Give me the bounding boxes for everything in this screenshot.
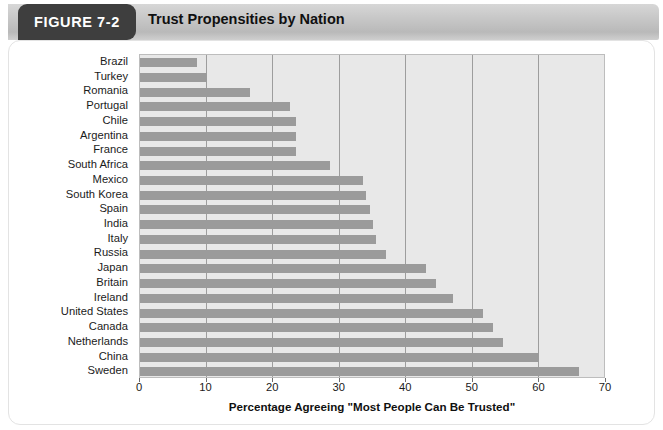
bar-row	[140, 70, 605, 85]
figure-root: FIGURE 7-2 Trust Propensities by Nation …	[0, 0, 663, 430]
bar-portugal	[140, 102, 290, 111]
bar-south-korea	[140, 191, 366, 200]
y-label-india: India	[104, 216, 128, 231]
bar-chile	[140, 117, 296, 126]
x-axis-tick-labels: 010203040506070	[139, 381, 605, 399]
y-label-canada: Canada	[89, 319, 128, 334]
bar-row	[140, 320, 605, 335]
bar-row	[140, 364, 605, 378]
x-tick-label-50: 50	[466, 381, 478, 393]
bar-row	[140, 55, 605, 70]
bar-row	[140, 173, 605, 188]
bar-row	[140, 202, 605, 217]
y-label-japan: Japan	[98, 260, 128, 275]
bar-india	[140, 220, 373, 229]
y-label-argentina: Argentina	[80, 128, 128, 143]
y-label-brazil: Brazil	[100, 54, 128, 69]
bar-canada	[140, 323, 493, 332]
y-label-united-states: United States	[61, 304, 128, 319]
bar-row	[140, 261, 605, 276]
y-label-china: China	[99, 349, 128, 364]
bar-row	[140, 291, 605, 306]
bar-row	[140, 276, 605, 291]
y-label-south-korea: South Korea	[66, 187, 128, 202]
y-label-portugal: Portugal	[86, 98, 128, 113]
bar-row	[140, 84, 605, 99]
bar-row	[140, 158, 605, 173]
x-tick-label-40: 40	[399, 381, 411, 393]
x-axis-title: Percentage Agreeing "Most People Can Be …	[139, 400, 605, 413]
bar-brazil	[140, 58, 197, 67]
bar-row	[140, 114, 605, 129]
bar-britain	[140, 279, 436, 288]
y-label-chile: Chile	[103, 113, 129, 128]
bar-row	[140, 129, 605, 144]
x-tick-label-20: 20	[266, 381, 278, 393]
bar-united-states	[140, 309, 483, 318]
y-axis-category-labels: BrazilTurkeyRomaniaPortugalChileArgentin…	[0, 54, 134, 378]
x-tick-label-70: 70	[599, 381, 611, 393]
bar-china	[140, 353, 539, 362]
bar-row	[140, 350, 605, 365]
y-label-mexico: Mexico	[93, 172, 128, 187]
bar-sweden	[140, 367, 579, 376]
bar-row	[140, 232, 605, 247]
x-tick-label-10: 10	[199, 381, 211, 393]
bar-row	[140, 217, 605, 232]
bar-chart: BrazilTurkeyRomaniaPortugalChileArgentin…	[0, 0, 663, 430]
bar-row	[140, 188, 605, 203]
y-label-britain: Britain	[96, 275, 128, 290]
bar-ireland	[140, 294, 453, 303]
bar-row	[140, 335, 605, 350]
bar-russia	[140, 250, 386, 259]
bar-row	[140, 143, 605, 158]
y-label-romania: Romania	[83, 83, 128, 98]
bar-spain	[140, 205, 370, 214]
bar-france	[140, 147, 296, 156]
bar-argentina	[140, 132, 296, 141]
bar-row	[140, 99, 605, 114]
x-tick-label-60: 60	[532, 381, 544, 393]
y-label-spain: Spain	[99, 201, 128, 216]
bar-row	[140, 246, 605, 261]
bar-japan	[140, 264, 426, 273]
bar-italy	[140, 235, 376, 244]
y-label-russia: Russia	[94, 245, 128, 260]
bar-romania	[140, 88, 250, 97]
bar-netherlands	[140, 338, 503, 347]
y-label-italy: Italy	[107, 231, 128, 246]
y-label-netherlands: Netherlands	[68, 334, 128, 349]
bar-mexico	[140, 176, 363, 185]
x-tick-label-30: 30	[332, 381, 344, 393]
y-label-south-africa: South Africa	[68, 157, 128, 172]
bar-row	[140, 305, 605, 320]
y-label-turkey: Turkey	[94, 69, 128, 84]
x-tick-label-0: 0	[136, 381, 142, 393]
bar-turkey	[140, 73, 207, 82]
bar-south-africa	[140, 161, 330, 170]
plot-area	[139, 54, 605, 378]
y-label-sweden: Sweden	[88, 363, 128, 378]
y-label-france: France	[93, 142, 128, 157]
y-label-ireland: Ireland	[94, 290, 128, 305]
